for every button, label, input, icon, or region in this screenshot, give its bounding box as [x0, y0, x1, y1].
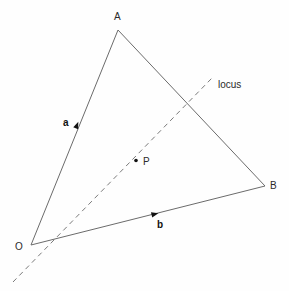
segment-locus [13, 78, 212, 282]
point-label-p: P [143, 157, 150, 167]
vector-b-arrow-icon [151, 212, 158, 217]
vertex-label-o: O [15, 242, 23, 252]
vector-a-arrow-icon [73, 122, 78, 129]
locus-label: locus [218, 80, 241, 90]
vertex-label-a: A [114, 12, 121, 22]
point-p-marker [134, 159, 138, 163]
vector-diagram-figure: A B O P a b locus [0, 0, 289, 291]
segment-oa [31, 30, 118, 245]
segment-ob [31, 186, 265, 245]
segment-ab [118, 30, 265, 186]
vector-label-b: b [157, 220, 163, 230]
vertex-label-b: B [270, 181, 277, 191]
geometry-canvas [0, 0, 289, 291]
vector-label-a: a [63, 118, 69, 128]
